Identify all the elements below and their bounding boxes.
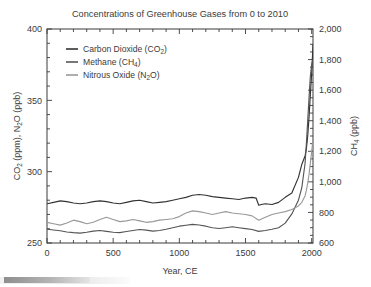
y-tick-label-right: 1,800 — [319, 55, 342, 65]
y-tick-label-right: 2,000 — [319, 24, 342, 34]
svg-text:CO2 (ppm), N2O (ppb): CO2 (ppm), N2O (ppb) — [12, 92, 23, 181]
legend-label-0: Carbon Dioxide (CO2) — [83, 44, 167, 55]
x-tick-label: 1000 — [169, 248, 189, 258]
chart-background — [0, 0, 371, 287]
x-tick-label: 500 — [106, 248, 121, 258]
y-tick-label-right: 600 — [319, 238, 334, 248]
x-axis-label: Year, CE — [162, 266, 197, 276]
x-tick-label: 1500 — [235, 248, 255, 258]
y-tick-label-right: 1,200 — [319, 146, 342, 156]
chart-canvas: Concentrations of Greenhouse Gases from … — [0, 0, 371, 287]
y-tick-label-left: 400 — [27, 24, 42, 34]
x-tick-label: 2000 — [302, 248, 322, 258]
x-tick-label: 0 — [44, 248, 49, 258]
y-tick-label-right: 1,600 — [319, 85, 342, 95]
y-axis-left-label: CO2 (ppm), N2O (ppb) — [12, 92, 23, 181]
y-tick-label-right: 1,000 — [319, 177, 342, 187]
horizontal-scrollbar-thumb[interactable] — [4, 277, 90, 283]
chart-title: Concentrations of Greenhouse Gases from … — [72, 9, 288, 19]
y-axis-right-label: CH4 (ppb) — [349, 116, 360, 156]
y-tick-label-right: 1,400 — [319, 116, 342, 126]
y-tick-label-left: 350 — [27, 96, 42, 106]
greenhouse-gas-chart-figure: Concentrations of Greenhouse Gases from … — [0, 0, 371, 287]
svg-text:CH4 (ppb): CH4 (ppb) — [349, 116, 360, 156]
legend-label-1: Methane (CH4) — [83, 57, 141, 68]
y-tick-label-left: 300 — [27, 167, 42, 177]
y-tick-label-right: 800 — [319, 208, 334, 218]
y-tick-label-left: 250 — [27, 238, 42, 248]
